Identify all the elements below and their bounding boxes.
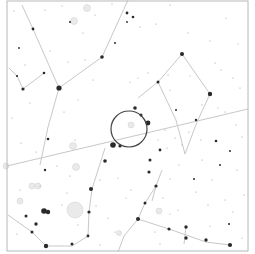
faint-star-icon	[187, 32, 188, 33]
faint-star-icon	[159, 243, 160, 244]
star-icon	[110, 142, 116, 148]
faint-star-icon	[167, 74, 168, 75]
faint-star-icon	[232, 211, 233, 212]
faint-star-icon	[169, 213, 170, 214]
faint-star-icon	[188, 131, 189, 132]
faint-star-icon	[214, 62, 215, 63]
faint-star-icon	[74, 139, 75, 140]
galaxy-icon	[29, 183, 35, 189]
star-icon	[175, 109, 177, 111]
star-icon	[204, 238, 207, 241]
star-icon	[31, 231, 34, 234]
star-icon	[144, 202, 147, 205]
faint-star-icon	[232, 77, 233, 78]
star-icon	[69, 21, 71, 23]
star-icon	[159, 149, 162, 152]
faint-star-icon	[61, 204, 62, 205]
faint-star-icon	[201, 159, 202, 160]
star-icon	[46, 210, 50, 214]
star-icon	[114, 42, 116, 44]
faint-star-icon	[44, 9, 45, 10]
faint-star-icon	[35, 151, 36, 152]
star-icon	[219, 164, 221, 166]
star-icon	[41, 208, 47, 214]
faint-star-icon	[39, 185, 40, 186]
faint-star-icon	[137, 77, 138, 78]
star-icon	[16, 75, 18, 77]
faint-star-icon	[139, 26, 140, 27]
star-icon	[103, 159, 107, 163]
star-icon	[147, 170, 150, 173]
faint-star-icon	[92, 79, 93, 80]
faint-star-icon	[99, 179, 100, 180]
faint-star-icon	[164, 129, 165, 130]
star-icon	[21, 87, 24, 90]
faint-star-icon	[130, 189, 131, 190]
star-icon	[180, 52, 184, 56]
faint-star-icon	[241, 237, 242, 238]
star-icon	[44, 244, 48, 248]
faint-star-icon	[114, 231, 115, 232]
galaxy-icon	[156, 208, 162, 214]
star-icon	[44, 169, 46, 171]
faint-star-icon	[225, 17, 226, 18]
faint-star-icon	[220, 69, 221, 70]
star-icon	[34, 222, 37, 225]
faint-star-icon	[236, 169, 237, 170]
faint-star-icon	[61, 5, 62, 6]
star-icon	[195, 119, 197, 121]
faint-star-icon	[77, 224, 78, 225]
faint-star-icon	[111, 3, 112, 4]
faint-star-icon	[189, 75, 190, 76]
star-icon	[228, 223, 230, 225]
faint-star-icon	[19, 189, 20, 190]
faint-star-icon	[82, 32, 83, 33]
galaxy-icon	[71, 18, 78, 25]
star-icon	[43, 72, 46, 75]
faint-star-icon	[162, 197, 163, 198]
faint-star-icon	[241, 136, 242, 137]
faint-star-icon	[117, 177, 118, 178]
faint-star-icon	[11, 117, 12, 118]
faint-star-icon	[66, 192, 67, 193]
galaxy-icon	[17, 198, 23, 204]
faint-star-icon	[20, 142, 21, 143]
faint-star-icon	[207, 204, 208, 205]
galaxy-icon	[70, 143, 77, 150]
faint-star-icon	[129, 81, 130, 82]
faint-star-icon	[201, 104, 202, 105]
faint-star-icon	[209, 40, 210, 41]
faint-star-icon	[107, 217, 108, 218]
faint-star-icon	[181, 144, 182, 145]
star-icon	[100, 55, 104, 59]
faint-star-icon	[200, 139, 201, 140]
star-chart	[0, 0, 255, 254]
faint-star-icon	[169, 178, 170, 179]
faint-star-icon	[195, 191, 196, 192]
faint-star-icon	[166, 147, 167, 148]
faint-star-icon	[94, 14, 95, 15]
faint-star-icon	[243, 194, 244, 195]
star-icon	[18, 47, 20, 49]
star-icon	[133, 106, 137, 110]
faint-star-icon	[24, 64, 25, 65]
star-icon	[56, 85, 61, 90]
star-icon	[149, 159, 152, 162]
star-icon	[89, 187, 93, 191]
faint-star-icon	[235, 124, 236, 125]
faint-star-icon	[157, 139, 158, 140]
faint-star-icon	[237, 43, 238, 44]
star-icon	[228, 243, 232, 247]
faint-star-icon	[13, 10, 14, 11]
star-icon	[71, 243, 74, 246]
faint-star-icon	[217, 107, 218, 108]
star-icon	[167, 227, 170, 230]
faint-star-icon	[67, 61, 68, 62]
star-icon	[157, 81, 160, 84]
faint-star-icon	[63, 111, 64, 112]
faint-star-icon	[155, 23, 156, 24]
faint-star-icon	[84, 59, 85, 60]
faint-star-icon	[125, 197, 126, 198]
faint-star-icon	[49, 50, 50, 51]
faint-star-icon	[209, 225, 210, 226]
